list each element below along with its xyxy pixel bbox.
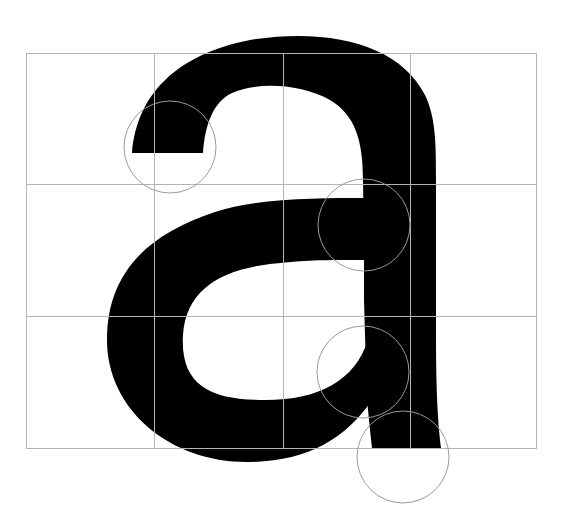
- letter-construction-diagram: [0, 0, 564, 528]
- diagram-svg: [0, 0, 564, 528]
- glyph-a: [107, 36, 441, 462]
- glyph-bowl: [107, 198, 372, 462]
